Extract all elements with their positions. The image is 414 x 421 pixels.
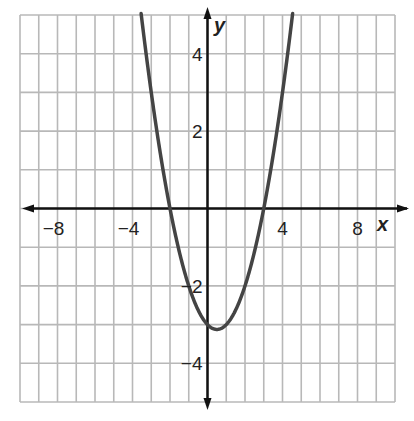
- axes: [22, 7, 409, 410]
- coordinate-plane: −8−44842−2−4 x y: [0, 0, 414, 421]
- y-axis-up-arrow-icon: [204, 7, 212, 19]
- y-tick-label: 4: [192, 44, 203, 65]
- x-tick-label: −8: [43, 218, 65, 239]
- x-axis-right-arrow-icon: [397, 205, 409, 213]
- y-axis-label: y: [213, 14, 226, 36]
- x-axis-label: x: [376, 213, 389, 235]
- y-axis-down-arrow-icon: [204, 398, 212, 410]
- x-tick-label: −4: [118, 218, 140, 239]
- x-tick-label: 8: [352, 218, 363, 239]
- y-tick-label: −4: [181, 353, 203, 374]
- y-tick-label: −2: [181, 276, 203, 297]
- y-tick-label: 2: [192, 121, 203, 142]
- x-axis-left-arrow-icon: [22, 205, 34, 213]
- parabola-curve: [141, 14, 292, 330]
- x-tick-label: 4: [277, 218, 288, 239]
